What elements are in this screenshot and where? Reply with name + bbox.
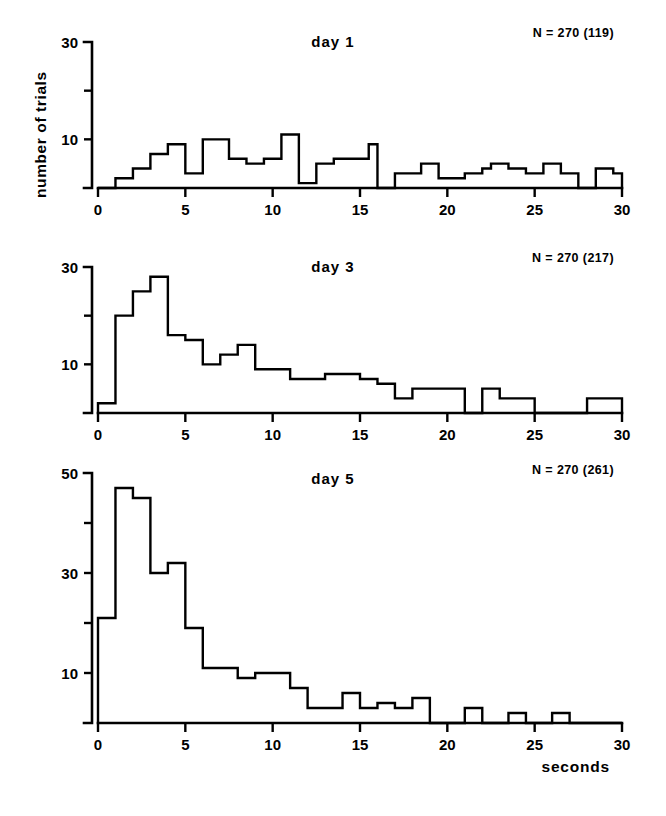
x-tick-label: 5 [181,736,189,753]
histogram-svg: 1030051015202530day 1N = 270 (119) [0,0,666,230]
panel-title: day 5 [311,470,354,487]
y-tick-label: 50 [61,465,78,482]
histogram-outline [98,488,622,723]
x-tick-label: 25 [526,201,543,218]
panel-title: day 3 [311,258,354,275]
x-tick-label: 25 [526,736,543,753]
sample-size-annotation: N = 270 (217) [532,251,614,265]
figure-histograms-panel: number of trials 1030051015202530day 1N … [0,0,666,816]
x-tick-label: 5 [181,426,189,443]
sample-size-annotation: N = 270 (119) [533,26,614,40]
y-tick-label: 30 [61,259,78,276]
x-tick-label: 30 [614,426,631,443]
y-axis: 1030 [61,34,92,189]
histogram-svg: 1030051015202530day 3N = 270 (217) [0,225,666,455]
panel-title: day 1 [311,33,354,50]
x-tick-label: 15 [352,736,369,753]
chart-panel-day-1: 1030051015202530day 1N = 270 (119) [0,0,666,230]
x-tick-label: 0 [94,201,102,218]
y-tick-label: 30 [61,565,78,582]
x-tick-label: 0 [94,736,102,753]
x-tick-label: 10 [264,426,281,443]
x-tick-label: 20 [439,201,456,218]
chart-panel-day-5: 103050051015202530day 5N = 270 (261)seco… [0,450,666,816]
sample-size-annotation: N = 270 (261) [532,463,614,477]
x-tick-label: 0 [94,426,102,443]
x-tick-label: 10 [264,201,281,218]
histogram-outline [98,277,622,413]
chart-panel-day-3: 1030051015202530day 3N = 270 (217) [0,225,666,455]
x-tick-label: 15 [352,201,369,218]
y-tick-label: 10 [61,356,78,373]
x-tick-label: 20 [439,736,456,753]
x-tick-label: 25 [526,426,543,443]
y-tick-label: 10 [61,665,78,682]
x-axis: 051015202530 [94,413,631,443]
y-axis: 1030 [61,259,92,414]
x-tick-label: 10 [264,736,281,753]
x-axis-label: seconds [542,758,611,775]
y-tick-label: 10 [61,131,78,148]
x-tick-label: 30 [614,736,631,753]
histogram-svg: 103050051015202530day 5N = 270 (261)seco… [0,450,666,816]
x-tick-label: 20 [439,426,456,443]
x-axis: 051015202530 [94,188,631,218]
x-axis: 051015202530 [94,723,631,753]
y-tick-label: 30 [61,34,78,51]
y-axis: 103050 [61,465,92,724]
x-tick-label: 15 [352,426,369,443]
x-tick-label: 5 [181,201,189,218]
histogram-outline [98,134,622,188]
x-tick-label: 30 [614,201,631,218]
